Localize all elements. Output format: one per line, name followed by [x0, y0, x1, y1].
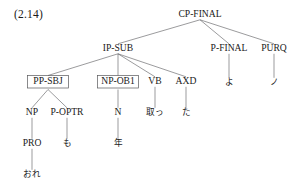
tree-node-vb: VB	[148, 75, 161, 86]
tree-node-totta: 取っ	[146, 107, 164, 117]
syntax-tree-figure: (2.14) CP-FINALIP-SUBP-FINALPURQPP-SBJNP…	[0, 0, 300, 191]
tree-branch	[48, 54, 118, 76]
tree-node-pro: PRO	[23, 137, 42, 148]
tree-node-ore: おれ	[23, 169, 41, 179]
tree-node-p-optr: P-OPTR	[50, 106, 84, 117]
tree-node-axd: AXD	[176, 75, 197, 86]
tree-node-np-ob1: NP-OB1	[101, 75, 135, 86]
tree-node-p-final: P-FINAL	[211, 42, 248, 53]
tree-node-np: NP	[26, 106, 38, 117]
tree-node-no: ノ	[270, 77, 279, 87]
tree-node-yo: よ	[225, 77, 234, 87]
tree-branch	[118, 20, 200, 44]
tree-branch	[118, 54, 155, 77]
tree-branch	[118, 54, 186, 77]
tree-node-mo: も	[63, 138, 72, 148]
tree-branch	[200, 20, 274, 44]
tree-node-cp-final: CP-FINAL	[178, 8, 221, 19]
tree-node-toshi: 年	[114, 137, 123, 148]
constituency-tree: CP-FINALIP-SUBP-FINALPURQPP-SBJNP-OB1VBA…	[0, 0, 300, 191]
tree-node-ip-sub: IP-SUB	[103, 42, 133, 53]
tree-node-pp-sbj: PP-SBJ	[33, 75, 63, 86]
tree-node-purq: PURQ	[261, 42, 287, 53]
tree-node-ta: た	[182, 107, 191, 117]
tree-node-n: N	[115, 106, 122, 117]
tree-branch	[200, 20, 229, 44]
